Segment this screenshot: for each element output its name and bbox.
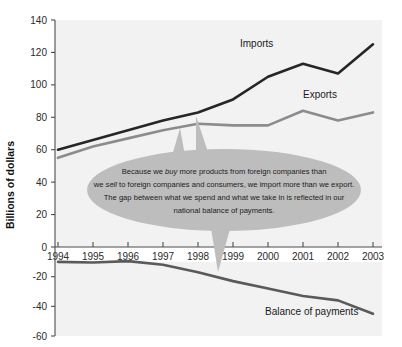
callout-line-2: we sell to foreign companies and consume… [93,180,354,189]
balance-series-label: Balance of payments [265,306,358,317]
trade-balance-chart: 020406080100120140 199419951996199719981… [0,0,402,347]
y-tick-label: 120 [30,47,47,58]
upper-y-ticks [51,20,55,247]
callout-line-1b: more products from foreign companies tha… [177,167,326,176]
y-axis-title: Billions of dollars [4,141,16,229]
imports-series-label: Imports [240,38,273,49]
lower-y-tick-labels: -60-40-20 [33,271,48,341]
y-tick-label: 100 [30,79,47,90]
x-tick-label: 1998 [187,251,210,262]
y-tick-label: -60 [33,331,48,342]
x-tick-label: 1999 [222,251,245,262]
y-tick-label: 60 [36,144,48,155]
upper-axis: 020406080100120140 [30,15,55,253]
x-tick-label: 1995 [82,251,105,262]
y-tick-label: -40 [33,301,48,312]
x-tick-label: 1994 [47,251,70,262]
lower-y-ticks [51,277,55,336]
upper-y-tick-labels: 020406080100120140 [30,15,47,253]
exports-series-label: Exports [303,89,337,100]
callout-line-2a: we [93,180,106,189]
y-tick-label: 80 [36,112,48,123]
callout-line-3: The gap between what we spend and what w… [104,193,345,202]
chart-container: 020406080100120140 199419951996199719981… [0,0,402,347]
callout-emphasis-sell: sell [106,180,118,189]
x-tick-label: 2003 [362,251,385,262]
callout-line-2b: to foreign companies and consumers, we i… [117,180,354,189]
x-tick-label: 2002 [327,251,350,262]
y-tick-label: 140 [30,15,47,26]
x-tick-label: 2000 [257,251,280,262]
x-tick-label: 2001 [292,251,315,262]
callout-line-1: Because we buy more products from foreig… [122,167,327,176]
x-tick-label: 1997 [152,251,175,262]
y-tick-label: -20 [33,271,48,282]
y-tick-label: 20 [36,209,48,220]
callout-line-1a: Because we [122,167,165,176]
callout-line-4: national balance of payments. [174,206,275,215]
callout-ellipse [87,149,361,231]
y-tick-label: 40 [36,177,48,188]
